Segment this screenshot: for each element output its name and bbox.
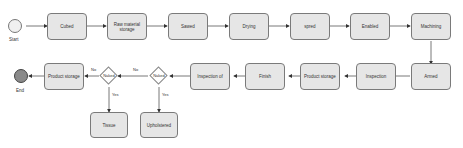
node-product-storage-final[interactable]: Product storage bbox=[44, 63, 84, 90]
node-upholstered[interactable]: Upholstered bbox=[140, 112, 178, 138]
end-label: End bbox=[16, 88, 24, 93]
start-event bbox=[8, 19, 22, 33]
node-raw-material-storage[interactable]: Raw material storage bbox=[107, 13, 147, 40]
node-enabled[interactable]: Enabled bbox=[350, 13, 390, 40]
gateway-naked-2-label: Naked bbox=[100, 73, 118, 78]
gateway-naked-1-label: Naked bbox=[150, 73, 168, 78]
start-label: Start bbox=[9, 37, 19, 42]
node-cubed[interactable]: Cubed bbox=[47, 13, 87, 40]
gateway-2-no-label: No bbox=[91, 67, 96, 72]
gateway-1-no-label: No bbox=[133, 67, 138, 72]
flowchart-canvas: Start Cubed Raw material storage Sawed D… bbox=[0, 0, 463, 148]
node-inspection[interactable]: Inspection bbox=[356, 63, 396, 90]
node-inspection-of[interactable]: Inspection of bbox=[190, 63, 230, 90]
gateway-1-yes-label: Yes bbox=[162, 92, 169, 97]
gateway-2-yes-label: Yes bbox=[112, 92, 119, 97]
node-armed[interactable]: Armed bbox=[411, 63, 451, 90]
node-drying[interactable]: Drying bbox=[229, 13, 269, 40]
end-event bbox=[14, 69, 28, 83]
node-tissue[interactable]: Tissue bbox=[90, 112, 128, 138]
node-spred[interactable]: spred bbox=[290, 13, 330, 40]
node-product-storage-mid[interactable]: Product storage bbox=[300, 63, 340, 90]
node-finish[interactable]: Finish bbox=[245, 63, 285, 90]
node-sawed[interactable]: Sawed bbox=[168, 13, 208, 40]
node-machining[interactable]: Machining bbox=[411, 13, 451, 40]
